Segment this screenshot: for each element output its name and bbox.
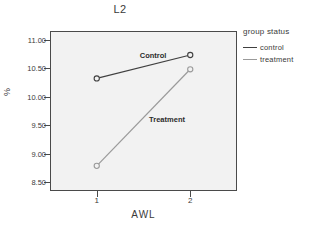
y-tick-label: 9.00	[6, 149, 46, 158]
y-tick-label: 9.50	[6, 121, 46, 130]
legend-item-label: treatment	[260, 55, 293, 64]
legend-line-swatch	[243, 59, 257, 60]
legend-entries: controltreatment	[243, 41, 318, 65]
legend-item-control[interactable]: control	[243, 41, 318, 53]
chart-title: L2	[0, 3, 240, 15]
legend: group status controltreatment	[243, 27, 318, 65]
legend-title: group status	[243, 27, 318, 36]
y-tick-label: 8.50	[6, 178, 46, 187]
chart-figure: L2 % 11.0010.5010.009.509.008.5012 AWL C…	[0, 0, 318, 236]
x-tick-label: 1	[85, 196, 109, 205]
x-tick-label: 2	[178, 196, 202, 205]
y-tick-label: 11.00	[6, 35, 46, 44]
y-tick-label: 10.50	[6, 64, 46, 73]
legend-item-treatment[interactable]: treatment	[243, 53, 318, 65]
legend-item-label: control	[260, 43, 284, 52]
series-annotation: Treatment	[149, 115, 185, 124]
series-annotation: Control	[140, 51, 167, 60]
x-axis-title: AWL	[50, 209, 237, 220]
y-tick-label: 10.00	[6, 92, 46, 101]
legend-line-swatch	[243, 47, 257, 48]
